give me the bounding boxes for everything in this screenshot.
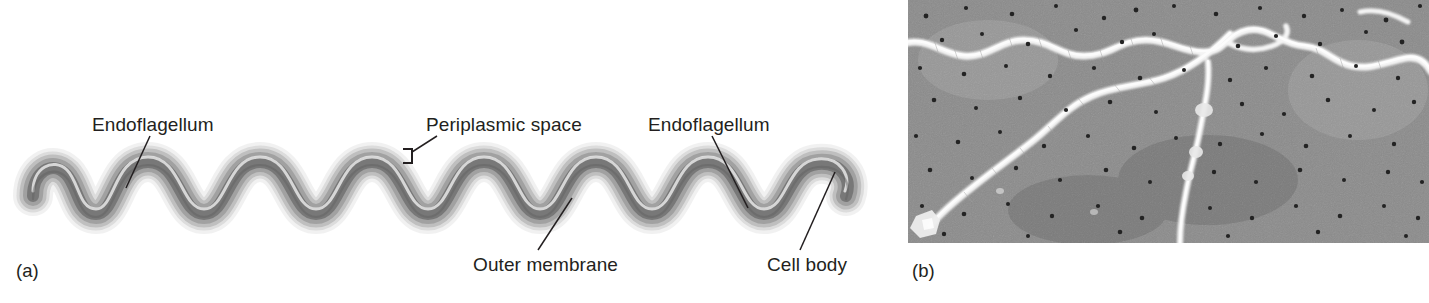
label-periplasmic-space: Periplasmic space — [426, 115, 582, 134]
leader-periplasmic-space — [412, 136, 437, 152]
label-outer-membrane: Outer membrane — [473, 255, 618, 274]
panel-b-micrograph — [908, 0, 1429, 243]
panel-tag-a: (a) — [16, 262, 39, 281]
label-endoflagellum-left: Endoflagellum — [92, 115, 214, 134]
figure-spirochete-structure: Endoflagellum Periplasmic space Endoflag… — [0, 0, 1429, 303]
label-cell-body: Cell body — [767, 255, 847, 274]
micrograph-content — [908, 0, 1429, 243]
label-endoflagellum-right: Endoflagellum — [648, 115, 770, 134]
panel-a-schematic: Endoflagellum Periplasmic space Endoflag… — [0, 0, 905, 303]
panel-tag-b: (b) — [912, 262, 935, 281]
